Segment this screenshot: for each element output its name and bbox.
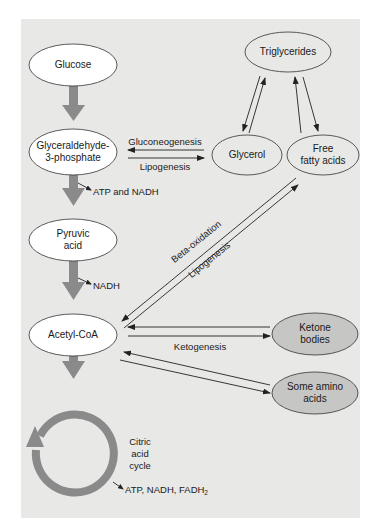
node-triglycerides-label: Triglycerides bbox=[245, 32, 331, 72]
glucose-text: Glucose bbox=[55, 59, 92, 71]
cycle-products-text: ATP, NADH, FADH bbox=[125, 484, 204, 495]
ketone-text-2: bodies bbox=[300, 334, 329, 346]
citric-text-3: cycle bbox=[124, 460, 156, 472]
label-lipogenesis-horizontal: Lipogenesis bbox=[124, 161, 206, 172]
node-ffa-label: Freefatty acids bbox=[287, 135, 359, 175]
g3p-text-2: 3-phosphate bbox=[45, 152, 101, 164]
pyruvic-text-2: acid bbox=[64, 240, 82, 252]
label-atp-nadh: ATP and NADH bbox=[93, 186, 159, 197]
label-citric-acid-cycle: Citric acid cycle bbox=[124, 436, 156, 472]
citric-text-2: acid bbox=[124, 448, 156, 460]
g3p-text-1: Glyceraldehyde- bbox=[37, 140, 110, 152]
node-amino-label: Some aminoacids bbox=[272, 372, 358, 414]
amino-text-1: Some amino bbox=[287, 381, 343, 393]
node-ketone-label: Ketonebodies bbox=[272, 313, 358, 355]
amino-text-2: acids bbox=[303, 393, 326, 405]
label-cycle-products: ATP, NADH, FADH2 bbox=[125, 484, 208, 498]
node-acetyl-coa-label: Acetyl-CoA bbox=[29, 314, 117, 356]
pyruvic-text-1: Pyruvic bbox=[57, 228, 90, 240]
node-pyruvic-label: Pyruvicacid bbox=[29, 219, 117, 261]
label-nadh: NADH bbox=[93, 280, 120, 291]
ketone-text-1: Ketone bbox=[299, 322, 331, 334]
ffa-text-1: Free bbox=[313, 143, 334, 155]
label-gluconeogenesis: Gluconeogenesis bbox=[124, 136, 206, 147]
triglycerides-text: Triglycerides bbox=[260, 46, 316, 58]
ffa-text-2: fatty acids bbox=[300, 155, 345, 167]
node-glycerol-label: Glycerol bbox=[212, 135, 282, 175]
node-glucose-label: Glucose bbox=[29, 44, 117, 86]
citric-text-1: Citric bbox=[124, 436, 156, 448]
node-g3p-label: Glyceraldehyde-3-phosphate bbox=[29, 129, 117, 175]
cycle-products-subscript: 2 bbox=[204, 489, 208, 496]
acetyl-coa-text: Acetyl-CoA bbox=[48, 329, 98, 341]
label-ketogenesis: Ketogenesis bbox=[160, 341, 240, 352]
citric-acid-cycle-ring bbox=[26, 415, 114, 493]
glycerol-text: Glycerol bbox=[229, 149, 266, 161]
